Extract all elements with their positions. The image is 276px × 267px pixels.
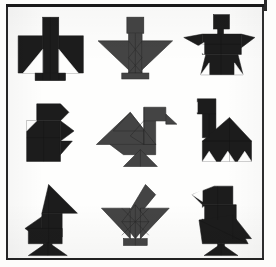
frame-rule-top-stub xyxy=(264,0,267,11)
tangram-cell-1 xyxy=(8,7,93,92)
perched-bird-figure xyxy=(177,176,262,261)
tangram-figure-grid xyxy=(8,7,262,258)
tangram-cell-2 xyxy=(93,7,178,92)
square-head-figure xyxy=(177,7,262,92)
tangram-cell-6 xyxy=(177,92,262,177)
frame-rule-right xyxy=(262,7,264,260)
tangram-plate-page xyxy=(0,0,276,267)
cross-bird-figure xyxy=(8,7,93,92)
tangram-cell-8 xyxy=(93,176,178,261)
winged-person-figure xyxy=(93,7,178,92)
tangram-cell-9 xyxy=(177,176,262,261)
spread-wing-bird-figure xyxy=(93,176,178,261)
duck-figure xyxy=(93,92,178,177)
tangram-cell-3 xyxy=(177,7,262,92)
blocky-bird-figure xyxy=(8,92,93,177)
camel-figure xyxy=(177,92,262,177)
tangram-cell-5 xyxy=(93,92,178,177)
rocket-figure xyxy=(8,176,93,261)
tangram-cell-7 xyxy=(8,176,93,261)
tangram-cell-4 xyxy=(8,92,93,177)
